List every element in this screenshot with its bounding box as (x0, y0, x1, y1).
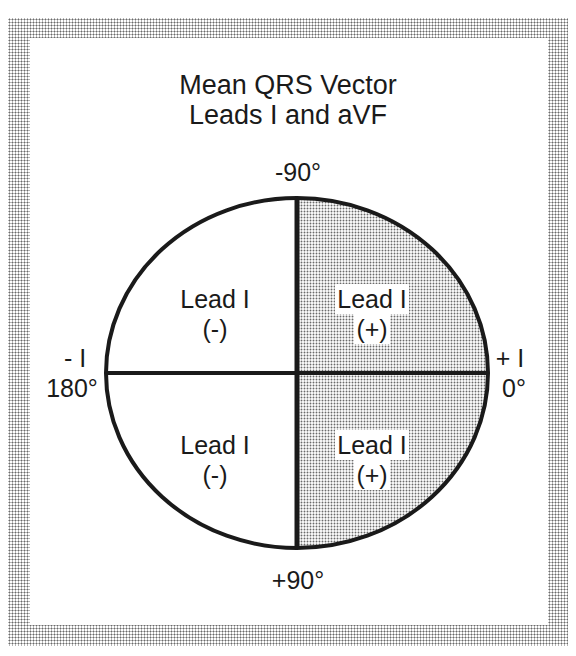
label-positive-lead-i: + I (490, 344, 530, 372)
quadrant-lead-label: Lead I (155, 430, 275, 460)
quadrant-upper-right: Lead I (+) (312, 284, 432, 344)
quadrant-sign: (+) (354, 460, 389, 490)
label-negative-lead-i: - I (50, 344, 100, 372)
quadrant-sign: (+) (354, 314, 389, 344)
quadrant-sign: (-) (155, 460, 275, 490)
quadrant-lead-label: Lead I (335, 430, 409, 460)
label-minus-90: -90° (256, 158, 340, 186)
qrs-axis-circle (0, 0, 576, 656)
label-180-degrees: 180° (40, 374, 104, 402)
quadrant-upper-left: Lead I (-) (155, 284, 275, 344)
quadrant-lower-right: Lead I (+) (312, 430, 432, 490)
label-plus-90: +90° (256, 566, 340, 594)
quadrant-lead-label: Lead I (335, 284, 409, 314)
quadrant-sign: (-) (155, 314, 275, 344)
quadrant-lower-left: Lead I (-) (155, 430, 275, 490)
quadrant-lead-label: Lead I (155, 284, 275, 314)
label-0-degrees: 0° (494, 374, 534, 402)
